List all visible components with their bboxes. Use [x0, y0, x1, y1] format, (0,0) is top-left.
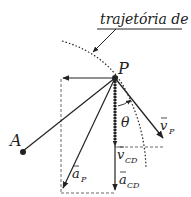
kinematics-diagram: trajetória de P P A θ v P v CD a P — [0, 0, 191, 197]
trajectory-label: trajetória de P — [100, 11, 191, 27]
svg-text:P: P — [80, 175, 87, 184]
vector-a-P — [63, 78, 115, 188]
label-a-P: a P — [72, 166, 87, 184]
angle-arc — [118, 100, 131, 106]
label-a-CD: a CD — [119, 172, 140, 190]
label-theta: θ — [121, 114, 130, 130]
svg-text:a: a — [119, 172, 127, 187]
label-P: P — [117, 59, 129, 78]
svg-text:CD: CD — [127, 181, 140, 190]
svg-text:CD: CD — [125, 156, 138, 165]
svg-text:v: v — [160, 118, 168, 133]
svg-text:v: v — [117, 147, 125, 162]
svg-text:a: a — [72, 166, 80, 181]
trajectory-curve — [62, 41, 146, 168]
label-A: A — [8, 131, 22, 150]
svg-text:P: P — [168, 127, 175, 136]
label-v-CD: v CD — [117, 147, 138, 165]
label-pointer-arrow — [93, 29, 116, 52]
line-P-A — [23, 78, 115, 151]
label-v-P: v P — [160, 118, 175, 136]
